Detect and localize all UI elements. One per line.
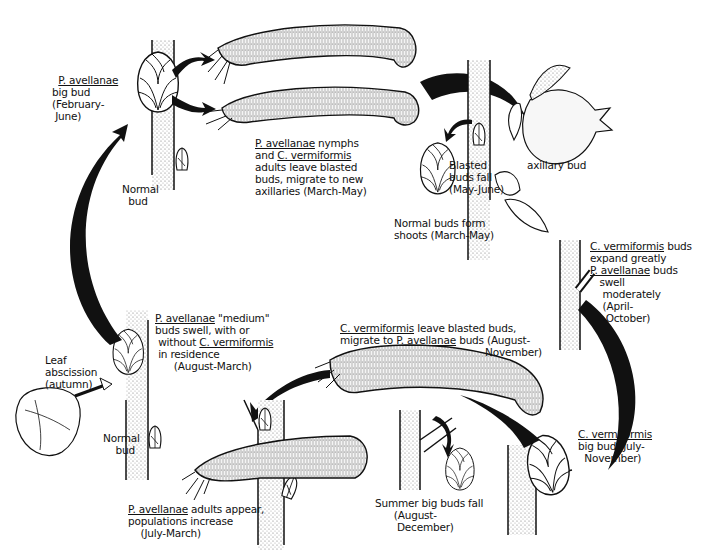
label-pav-big-bud: P. avellanaebig bud (February- June) <box>52 62 118 122</box>
stem-right-middle <box>560 240 592 350</box>
label-cv-expand: C. vermiformis budsexpand greatlyP. avel… <box>590 240 692 324</box>
label-normal-bud-top: Normal bud <box>122 183 159 207</box>
stem-top-left <box>138 40 188 190</box>
label-pav-medium: P. avellanae "medium"buds swell, with or… <box>155 312 273 372</box>
arrow-cycle-left <box>70 124 128 345</box>
normal-bud-bottom-icon <box>149 426 161 448</box>
mite-top-2 <box>204 87 419 130</box>
label-blasted-fall: Blasted buds fall (May-June) <box>449 159 504 195</box>
stem-summer-fall <box>400 410 474 490</box>
label-normal-bud-bottom: Normal bud <box>103 432 140 456</box>
pav-bud-small-icon <box>259 408 271 430</box>
label-axillary-bud: axillary bud <box>527 159 586 171</box>
mite-top-1 <box>205 25 416 84</box>
stem-bottom-right <box>508 432 573 535</box>
label-pav-adults: P. avellanae adults appear,populations i… <box>128 503 264 539</box>
label-summer-fall: Summer big buds fall (August- December) <box>375 497 483 533</box>
blasted-bud-small-icon <box>473 123 485 145</box>
normal-bud-icon <box>176 148 188 170</box>
label-cv-big-bud: C. vermiformisbig bud (July- November) <box>578 428 652 464</box>
label-nymphs-leave: P. avellanae nymphsand C. vermiformisadu… <box>255 137 367 197</box>
summer-big-bud-icon <box>446 448 474 490</box>
label-leaf-abscission: Leaf abscission (autumn) <box>45 354 97 390</box>
leaf-icon <box>523 90 612 164</box>
label-normal-shoots: Normal buds form shoots (March-May) <box>394 217 494 241</box>
species-name: P. avellanae <box>58 74 118 86</box>
label-cv-leave: C. vermiformis leave blasted buds,migrat… <box>340 322 542 358</box>
